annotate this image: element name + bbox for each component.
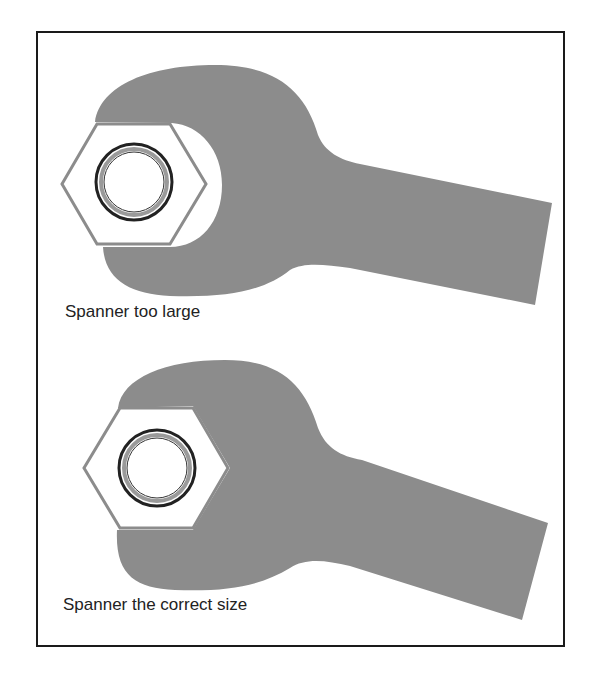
- nut-bore: [104, 152, 164, 212]
- spanner-too-large: [62, 65, 552, 305]
- caption-too-large: Spanner too large: [65, 302, 200, 322]
- nut-bore: [127, 438, 187, 498]
- spanner-correct-size: [84, 360, 548, 620]
- caption-correct-size: Spanner the correct size: [63, 595, 247, 615]
- spanner-diagram: [0, 0, 594, 674]
